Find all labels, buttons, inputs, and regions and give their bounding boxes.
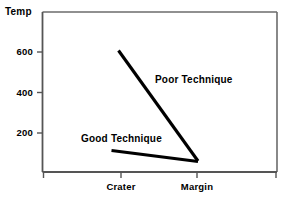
chart-figure: Temp 600 400 200 Crater Margin Poor Tech… (0, 0, 287, 203)
data-series (112, 51, 199, 162)
series-annotation-poor-technique: Poor Technique (155, 74, 233, 85)
plot-canvas (0, 0, 287, 203)
x-tick-label-margin: Margin (167, 181, 227, 192)
series-annotation-good-technique: Good Technique (81, 133, 162, 144)
y-tick-label-200: 200 (5, 127, 33, 138)
x-tick-label-crater: Crater (91, 181, 151, 192)
series-line-poor-technique (119, 51, 199, 162)
series-line-good-technique (112, 151, 199, 162)
y-axis-title: Temp (5, 6, 32, 17)
y-tick-label-600: 600 (5, 46, 33, 57)
plot-frame (43, 12, 278, 172)
y-tick-label-400: 400 (5, 87, 33, 98)
